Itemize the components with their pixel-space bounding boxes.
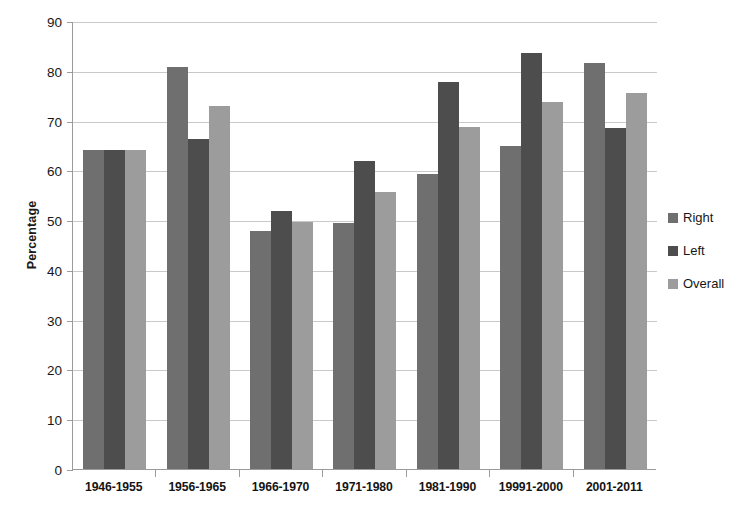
y-axis-tick-label: 10 [47, 413, 62, 428]
bar [626, 93, 647, 469]
legend: RightLeftOverall [668, 210, 724, 291]
bar [584, 63, 605, 469]
bar [333, 223, 354, 469]
legend-swatch-icon [668, 279, 678, 289]
x-axis-tick [406, 470, 407, 477]
legend-swatch-icon [668, 213, 678, 223]
x-axis-tick-labels: 1946-19551956-19651966-19701971-19801981… [72, 480, 656, 494]
x-axis-tick [573, 470, 574, 477]
x-axis-tick-label: 1956-1965 [155, 480, 238, 494]
bar [438, 82, 459, 469]
bar-group [323, 21, 406, 469]
y-axis-tick-label: 70 [47, 114, 62, 129]
bar [104, 150, 125, 469]
bar-group [574, 21, 657, 469]
legend-item-overall[interactable]: Overall [668, 276, 724, 291]
bar-chart: Percentage 9080706050403020100 1946-1955… [0, 0, 742, 506]
bar-group [240, 21, 323, 469]
bar [209, 106, 230, 469]
bar [250, 231, 271, 469]
bar [459, 127, 480, 469]
x-axis-tick-label: 1946-1955 [72, 480, 155, 494]
bar [605, 128, 626, 469]
y-axis-tick-label: 50 [47, 214, 62, 229]
x-axis-tick-label: 1966-1970 [239, 480, 322, 494]
bar [417, 174, 438, 469]
bars-layer [73, 21, 657, 469]
bar [500, 146, 521, 469]
legend-label: Left [683, 243, 705, 258]
bar-group [490, 21, 573, 469]
x-axis-tick [489, 470, 490, 477]
x-axis-ticks [72, 470, 656, 477]
legend-label: Overall [683, 276, 724, 291]
x-axis-tick-label: 19991-2000 [489, 480, 572, 494]
bar [542, 102, 563, 469]
bar [167, 67, 188, 469]
bar [521, 53, 542, 469]
y-axis-title: Percentage [25, 175, 39, 295]
y-axis-tick-label: 60 [47, 164, 62, 179]
y-axis-tick-label: 40 [47, 263, 62, 278]
x-axis-tick-label: 2001-2011 [573, 480, 656, 494]
bar [188, 139, 209, 469]
x-axis-tick [239, 470, 240, 477]
bar [354, 161, 375, 469]
legend-item-left[interactable]: Left [668, 243, 724, 258]
bar-group [73, 21, 156, 469]
bar [83, 150, 104, 469]
y-axis-tick-label: 20 [47, 363, 62, 378]
y-axis-tick-label: 80 [47, 64, 62, 79]
y-axis-tick-label: 0 [54, 463, 62, 478]
bar [125, 150, 146, 469]
x-axis-tick [155, 470, 156, 477]
legend-item-right[interactable]: Right [668, 210, 724, 225]
bar-group [156, 21, 239, 469]
legend-swatch-icon [668, 246, 678, 256]
bar-group [407, 21, 490, 469]
bar [292, 222, 313, 469]
bar [375, 192, 396, 469]
y-axis-tick-label: 90 [47, 15, 62, 30]
x-axis-tick-label: 1981-1990 [406, 480, 489, 494]
legend-label: Right [683, 210, 713, 225]
plot-area: 9080706050403020100 [72, 22, 656, 470]
y-axis-tick-label: 30 [47, 313, 62, 328]
bar [271, 211, 292, 469]
x-axis-tick [322, 470, 323, 477]
x-axis-tick-label: 1971-1980 [322, 480, 405, 494]
